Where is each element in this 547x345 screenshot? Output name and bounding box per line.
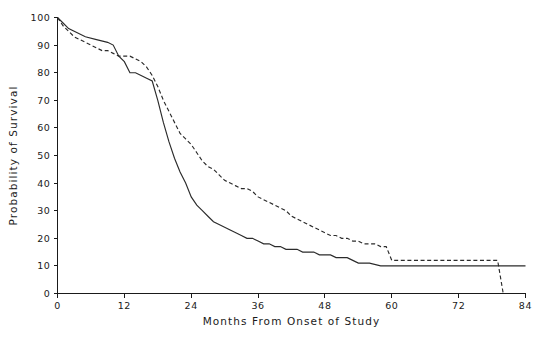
x-axis-tick-labels: 012243648607284 [54,300,532,311]
y-axis-title: Probability of Survival [7,86,19,226]
survival-chart-figure: 0102030405060708090100 012243648607284 P… [0,0,547,345]
x-axis-ticks [58,294,526,298]
x-axis-title: Months From Onset of Study [203,315,381,327]
y-tick-label: 70 [37,95,50,106]
x-tick-label: 84 [519,300,532,311]
x-tick-label: 36 [251,300,264,311]
survival-curve-dashed [58,18,504,294]
y-tick-label: 80 [37,67,50,78]
y-tick-label: 90 [37,40,50,51]
y-tick-label: 30 [37,205,50,216]
x-tick-label: 12 [118,300,131,311]
y-axis-ticks [54,18,58,294]
x-tick-label: 0 [54,300,61,311]
y-axis-tick-labels: 0102030405060708090100 [31,12,51,299]
axes-group [54,18,526,298]
axis-titles-group: Probability of Survival Months From Onse… [7,86,380,327]
y-tick-label: 40 [37,178,50,189]
x-tick-label: 60 [385,300,398,311]
x-tick-label: 72 [452,300,465,311]
y-tick-label: 20 [37,233,50,244]
y-tick-label: 60 [37,122,50,133]
y-tick-label: 50 [37,150,50,161]
survival-plot-svg: 0102030405060708090100 012243648607284 P… [0,0,547,345]
x-tick-label: 48 [318,300,331,311]
x-tick-label: 24 [185,300,198,311]
y-tick-label: 0 [44,288,51,299]
y-tick-label: 10 [37,260,50,271]
curves-group [58,18,526,294]
y-tick-label: 100 [31,12,51,23]
survival-curve-solid [58,18,526,266]
